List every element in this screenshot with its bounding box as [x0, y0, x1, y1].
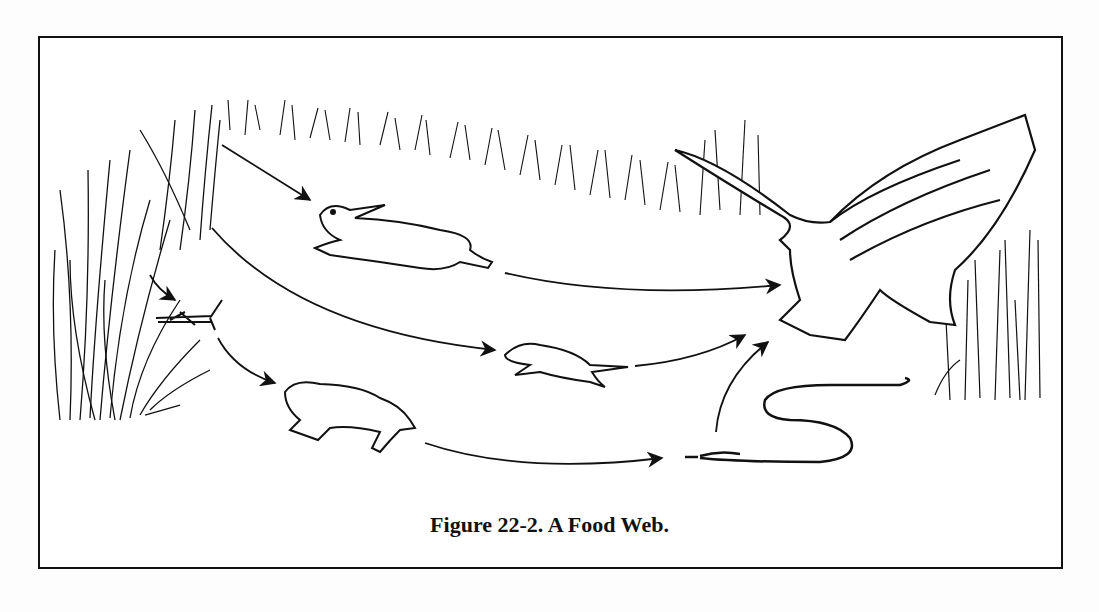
arrow-grasshopper-to-frog: [218, 338, 275, 383]
arrow-snake-to-hawk: [716, 342, 768, 432]
arrow-frog-to-snake: [425, 443, 662, 464]
arrow-grass-to-rabbit: [222, 145, 310, 200]
hawk-icon: [675, 115, 1035, 340]
arrow-mouse-to-hawk: [635, 335, 745, 366]
arrow-rabbit-to-hawk: [505, 273, 780, 290]
snake-icon: [685, 378, 909, 462]
mouse-icon: [505, 344, 628, 387]
grasshopper-icon: [156, 300, 222, 330]
figure-caption: Figure 22-2. A Food Web.: [0, 512, 1099, 538]
energy-flow-arrows: [150, 145, 780, 464]
grass-left-clump-icon: [53, 105, 220, 420]
rabbit-icon: [315, 205, 492, 269]
frog-icon: [285, 382, 415, 452]
